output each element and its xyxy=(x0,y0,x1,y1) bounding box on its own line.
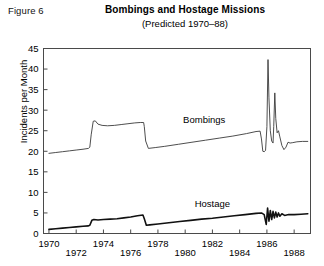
x-axis-tick-label: 1976 xyxy=(120,247,141,258)
y-axis-tick-label: 45 xyxy=(28,43,39,54)
y-axis-tick-label: 35 xyxy=(28,84,39,95)
x-axis-tick-label: 1984 xyxy=(229,247,250,258)
series-line-bombings xyxy=(49,60,308,154)
plot-area: 0510152025303540451970197219741976197819… xyxy=(0,0,324,266)
x-axis-tick-label: 1986 xyxy=(256,238,277,249)
series-annotation-hostage: Hostage xyxy=(195,198,230,209)
figure-container: Figure 6 Bombings and Hostage Missions (… xyxy=(0,0,324,266)
y-axis-tick-label: 40 xyxy=(28,63,39,74)
series-annotation-bombings: Bombings xyxy=(183,114,225,125)
y-axis-tick-label: 15 xyxy=(28,166,39,177)
x-axis-tick-label: 1974 xyxy=(93,238,114,249)
y-axis-tick-label: 30 xyxy=(28,105,39,116)
y-axis-tick-label: 10 xyxy=(28,187,39,198)
series-line-hostage xyxy=(49,208,308,229)
plot-frame xyxy=(44,49,311,234)
x-axis-tick-label: 1970 xyxy=(38,238,59,249)
y-axis-tick-label: 5 xyxy=(33,207,38,218)
chart-svg: 0510152025303540451970197219741976197819… xyxy=(0,0,324,266)
x-axis-tick-label: 1988 xyxy=(284,247,305,258)
x-axis-tick-label: 1978 xyxy=(147,238,168,249)
x-axis-tick-label: 1980 xyxy=(175,247,196,258)
x-axis-tick-label: 1972 xyxy=(66,247,87,258)
y-axis-tick-label: 25 xyxy=(28,125,39,136)
x-axis-tick-label: 1982 xyxy=(202,238,223,249)
y-axis-tick-label: 20 xyxy=(28,146,39,157)
